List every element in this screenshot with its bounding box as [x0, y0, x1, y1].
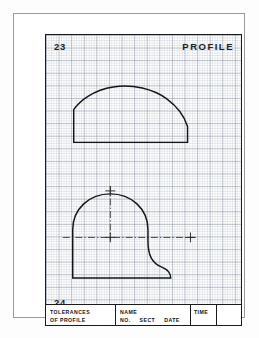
title-block-cell-name: NAME NO. SECT DATE	[116, 305, 191, 325]
origin-center-mark	[105, 232, 115, 242]
radius-reference-mark	[186, 232, 196, 242]
title-block-cell-blank	[217, 305, 241, 325]
title-block: TOLERANCES OF PROFILE NAME NO. SECT DATE…	[45, 304, 242, 326]
name-label: NAME	[120, 308, 190, 316]
sheet-outer-border: 23 PROFILE 24	[13, 13, 245, 318]
tolerances-line-2: OF PROFILE	[50, 316, 115, 324]
drawing-sheet: 23 PROFILE 24	[0, 0, 259, 338]
title-block-cell-time: TIME	[191, 305, 217, 325]
drawing-frame: 23 PROFILE 24	[45, 34, 242, 326]
sect-label: SECT	[140, 316, 156, 324]
time-label: TIME	[194, 308, 216, 316]
tolerances-line-1: TOLERANCES	[50, 308, 115, 316]
upper-profile-outline	[74, 86, 188, 142]
lower-profile-outline	[73, 194, 171, 278]
technical-drawing-canvas	[46, 35, 241, 325]
no-label: NO.	[120, 316, 131, 324]
date-label: DATE	[164, 316, 180, 324]
title-block-cell-tolerances: TOLERANCES OF PROFILE	[46, 305, 116, 325]
